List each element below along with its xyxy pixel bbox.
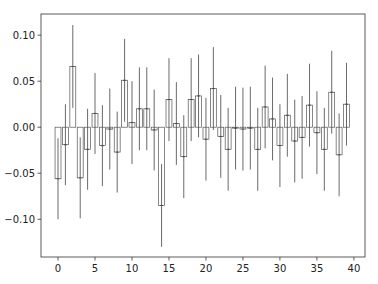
x-tick-label: 0	[55, 263, 61, 274]
x-axis: 0510152025303540	[55, 257, 360, 274]
x-tick-label: 25	[237, 263, 250, 274]
y-tick-label: 0.05	[13, 76, 35, 87]
x-tick-label: 20	[200, 263, 213, 274]
x-tick-label: 35	[311, 263, 324, 274]
x-tick-label: 10	[126, 263, 139, 274]
y-axis: −0.10−0.050.000.050.10	[4, 30, 41, 225]
x-tick-label: 5	[92, 263, 98, 274]
x-tick-label: 30	[274, 263, 287, 274]
y-tick-label: −0.05	[4, 168, 35, 179]
y-tick-label: 0.00	[13, 122, 35, 133]
x-tick-label: 40	[348, 263, 361, 274]
bar-chart: 0510152025303540 −0.10−0.050.000.050.10	[0, 0, 378, 284]
bars-group	[55, 66, 349, 205]
x-tick-label: 15	[163, 263, 176, 274]
y-tick-label: 0.10	[13, 30, 35, 41]
y-tick-label: −0.10	[4, 214, 35, 225]
